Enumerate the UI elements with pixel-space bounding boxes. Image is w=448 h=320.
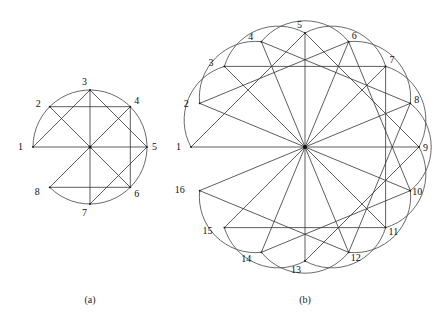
center-node xyxy=(89,146,92,149)
vertex-label-11: 11 xyxy=(389,226,399,237)
vertex-label-3: 3 xyxy=(82,76,87,87)
vertex-label-5: 5 xyxy=(152,141,157,152)
vertex-1 xyxy=(190,146,192,148)
vertex-label-12: 12 xyxy=(351,252,361,263)
arc-3-5 xyxy=(224,26,305,66)
vertex-12 xyxy=(348,251,350,253)
vertex-label-9: 9 xyxy=(423,142,428,153)
vertex-label-1: 1 xyxy=(176,141,181,152)
vertex-14 xyxy=(260,251,262,253)
figure-canvas: 12345678 12345678910111213141516 (a) (b) xyxy=(0,0,448,320)
vertex-9 xyxy=(418,146,420,148)
arc-13-15 xyxy=(224,228,305,268)
vertex-label-6: 6 xyxy=(134,188,139,199)
vertex-2 xyxy=(49,106,51,108)
vertex-4 xyxy=(260,41,262,43)
vertex-8 xyxy=(409,102,411,104)
vertex-label-1: 1 xyxy=(18,141,23,152)
diagram-panel-b: 12345678910111213141516 xyxy=(175,19,432,275)
vertex-label-4: 4 xyxy=(248,31,253,42)
caption-b: (b) xyxy=(299,294,311,306)
vertex-11 xyxy=(385,227,387,229)
arc-11-13 xyxy=(305,228,386,268)
vertex-label-16: 16 xyxy=(175,184,185,195)
vertex-3 xyxy=(223,65,225,67)
caption-a: (a) xyxy=(84,294,95,306)
vertex-8 xyxy=(49,186,51,188)
vertex-6 xyxy=(129,186,131,188)
vertex-label-10: 10 xyxy=(412,186,422,197)
vertex-label-15: 15 xyxy=(202,225,212,236)
vertex-7 xyxy=(385,65,387,67)
vertex-label-2: 2 xyxy=(36,98,41,109)
vertex-3 xyxy=(89,89,91,91)
arc-7-9 xyxy=(386,66,426,147)
vertex-label-14: 14 xyxy=(241,253,251,264)
vertex-label-2: 2 xyxy=(184,98,189,109)
vertex-4 xyxy=(129,106,131,108)
diagram-panel-a: 12345678 xyxy=(18,76,157,218)
vertex-label-7: 7 xyxy=(82,207,87,218)
arc-5-7 xyxy=(305,26,386,66)
vertex-label-5: 5 xyxy=(297,19,302,30)
arc-1-3 xyxy=(184,66,224,147)
vertex-5 xyxy=(304,32,306,34)
vertex-2 xyxy=(199,102,201,104)
vertex-10 xyxy=(409,190,411,192)
vertex-7 xyxy=(89,203,91,205)
vertex-1 xyxy=(32,146,34,148)
vertex-label-4: 4 xyxy=(134,95,139,106)
vertex-label-6: 6 xyxy=(352,30,357,41)
vertex-label-7: 7 xyxy=(390,54,395,65)
vertex-label-8: 8 xyxy=(35,186,40,197)
vertex-15 xyxy=(223,227,225,229)
vertex-label-8: 8 xyxy=(414,94,419,105)
center-node xyxy=(303,145,307,149)
vertex-13 xyxy=(304,260,306,262)
vertex-label-13: 13 xyxy=(291,264,301,275)
vertex-6 xyxy=(348,41,350,43)
vertex-5 xyxy=(146,146,148,148)
vertex-label-3: 3 xyxy=(208,57,213,68)
vertex-16 xyxy=(199,190,201,192)
